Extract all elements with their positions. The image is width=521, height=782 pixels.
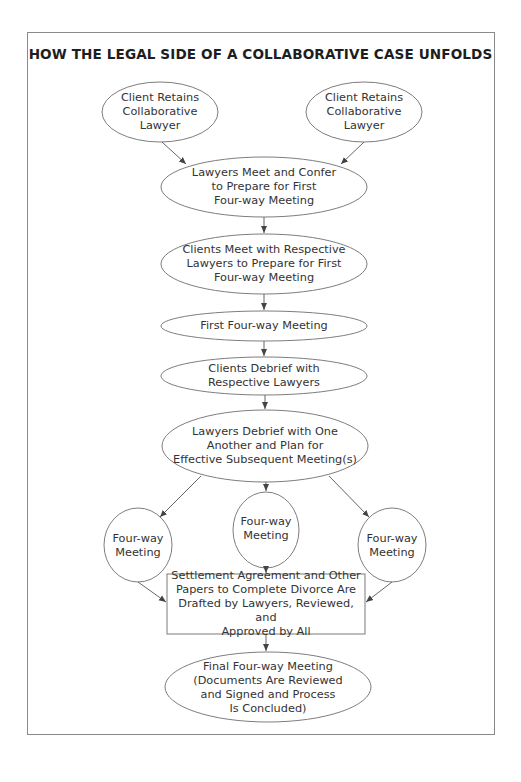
- edge-meeting-left-to-settlement: [138, 582, 166, 602]
- node-clients-debrief: Clients Debrief with Respective Lawyers: [161, 361, 367, 391]
- node-client-left: Client Retains Collaborative Lawyer: [102, 84, 218, 140]
- node-meeting-left: Four-way Meeting: [104, 531, 172, 561]
- node-client-right: Client Retains Collaborative Lawyer: [306, 84, 422, 140]
- edge-lawyers-debrief-to-meeting-left: [160, 476, 201, 517]
- edge-meeting-right-to-settlement: [366, 582, 392, 602]
- node-settlement: Settlement Agreement and Other Papers to…: [167, 575, 365, 633]
- node-meeting-center: Four-way Meeting: [232, 514, 300, 544]
- node-first-meeting: First Four-way Meeting: [161, 318, 367, 334]
- node-final-meeting: Final Four-way Meeting (Documents Are Re…: [165, 656, 371, 720]
- node-meeting-right: Four-way Meeting: [358, 531, 426, 561]
- node-lawyers-debrief: Lawyers Debrief with One Another and Pla…: [162, 418, 368, 474]
- edge-lawyers-debrief-to-meeting-right: [329, 476, 369, 517]
- node-clients-meet: Clients Meet with Respective Lawyers to …: [161, 236, 367, 292]
- node-lawyers-meet: Lawyers Meet and Confer to Prepare for F…: [161, 159, 367, 215]
